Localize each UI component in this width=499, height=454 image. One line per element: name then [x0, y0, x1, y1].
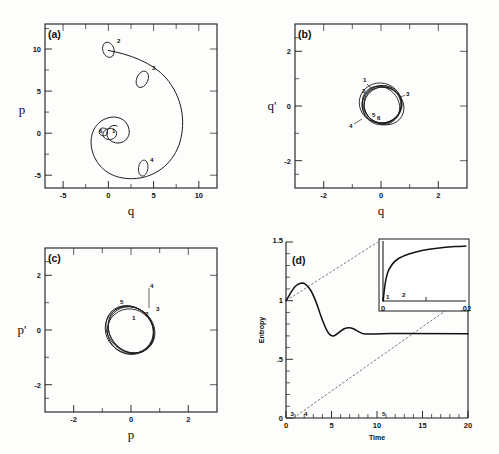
figure-canvas: (a) 10 5 0 -5: [0, 0, 499, 454]
panel-d-xlabel-10: 10: [373, 421, 381, 430]
panel-d-xlabel-0: 0: [284, 421, 288, 430]
panel-b-y-ticks: [295, 38, 467, 175]
panel-d-xlabel-15: 15: [418, 421, 426, 430]
panel-a-ylabel-0: 0: [37, 129, 41, 138]
panel-b: (b) 2 0 -2: [250, 2, 499, 230]
panel-b-xlabel-minus2: -2: [320, 191, 327, 200]
panel-d-x-ticks: [286, 411, 468, 418]
panel-b-x-ticks: [324, 24, 439, 188]
panel-a-ylabel-10: 10: [33, 45, 41, 54]
panel-c-point-label-5: 5: [120, 298, 124, 305]
panel-b-xlabel-0: 0: [379, 191, 383, 200]
panel-c-point-label-4: 4: [150, 282, 154, 289]
panel-b-point-label-1: 1: [363, 76, 367, 83]
panel-d-inset-point-label-1: 1: [386, 293, 390, 300]
panel-d-point-label-5: 5: [382, 410, 386, 417]
panel-c-frame: [45, 248, 217, 412]
panel-c-ylabel-minus2: -2: [34, 381, 41, 390]
panel-c-tag: (c): [48, 252, 61, 264]
panel-b-frame: [295, 24, 467, 188]
panel-c-xlabel-minus2: -2: [70, 415, 77, 424]
panel-a-ellipse-3: [134, 69, 151, 89]
panel-a-point-label-3: 3: [152, 64, 156, 71]
panel-b-xlabel-2: 2: [436, 191, 440, 200]
panel-d-inset-xlabel-point02: .02: [461, 304, 471, 313]
panel-c-axis-title-y: p': [18, 322, 27, 337]
panel-c-xlabel-0: 0: [129, 415, 133, 424]
panel-d-axis-title-y: Entropy: [258, 317, 266, 344]
panel-b-point-label-5: 5: [372, 111, 376, 118]
panel-c-contours: [96, 296, 165, 364]
panel-a-xlabel-0: 0: [106, 191, 110, 200]
panel-a-tag: (a): [48, 28, 61, 40]
panel-a-xlabel-10: 10: [195, 191, 203, 200]
panel-c-point-label-2: 2: [145, 310, 149, 317]
panel-a-frame: [45, 24, 217, 188]
panel-c-x-ticks: [74, 248, 189, 412]
panel-c-xlabel-2: 2: [186, 415, 190, 424]
panel-d-point-label-3: 3: [291, 410, 295, 417]
panel-d-inset: 0 .02 1 2: [379, 239, 471, 313]
panel-b-leader-4: [354, 119, 362, 124]
panel-b-point-label-6: 6: [377, 114, 381, 121]
panel-d: (d) 0: [250, 226, 499, 454]
panel-d-xlabel-20: 20: [464, 421, 472, 430]
panel-b-axis-title-y: q': [268, 98, 277, 113]
panel-d-ylabel-1: 1: [279, 296, 283, 305]
panel-a-ellipse-4: [137, 159, 149, 176]
panel-b-contour-2: [360, 83, 405, 126]
panel-b-ylabel-2: 2: [287, 47, 291, 56]
panel-d-tag: (d): [292, 254, 305, 266]
panel-a-ylabel-5: 5: [37, 87, 41, 96]
panel-d-inset-xlabel-0: 0: [381, 304, 385, 313]
panel-b-ylabel-minus2: -2: [284, 157, 291, 166]
panel-a: (a) 10 5 0 -5: [0, 2, 250, 230]
panel-a-x-ticks: [63, 24, 199, 188]
panel-d-axis-title-x: Time: [369, 434, 385, 441]
panel-a-y-ticks: [45, 29, 217, 176]
panel-a-point-label-1: 1: [112, 127, 116, 134]
panel-c-point-label-3: 3: [156, 305, 160, 312]
panel-c-axis-title-x: p: [128, 427, 135, 442]
panel-d-ylabel-1point5: 1.5: [273, 236, 283, 245]
panel-a-ylabel-minus5: -5: [34, 171, 41, 180]
panel-d-ylabel-0: 0: [279, 414, 283, 423]
panel-a-ellipse-2: [101, 41, 116, 59]
panel-b-point-label-3: 3: [406, 90, 410, 97]
panel-c-point-label-1: 1: [132, 314, 136, 321]
panel-c-ylabel-2: 2: [37, 271, 41, 280]
panel-d-point-label-4: 4: [304, 410, 308, 417]
panel-c-ylabel-0: 0: [37, 326, 41, 335]
panel-d-xlabel-5: 5: [329, 421, 333, 430]
panel-a-point-label-4: 4: [150, 156, 154, 163]
panel-a-axis-title-x: q: [128, 203, 135, 218]
panel-b-tag: (b): [298, 28, 311, 40]
panel-d-reference-line-upper: [286, 242, 378, 301]
panel-a-xlabel-minus5: -5: [60, 191, 67, 200]
panel-a-point-label-6: 6: [99, 127, 103, 134]
panel-a-axis-title-y: p: [19, 102, 26, 117]
panel-a-xlabel-5: 5: [152, 191, 156, 200]
panel-d-ylabel-point5: .5: [277, 355, 283, 364]
panel-b-point-label-4: 4: [349, 122, 353, 129]
panel-c: (c) 2 0 -2: [0, 226, 250, 454]
panel-b-ylabel-0: 0: [287, 102, 291, 111]
panel-b-axis-title-x: q: [378, 203, 385, 218]
panel-a-trajectory: [91, 51, 183, 179]
panel-b-point-label-2: 2: [362, 87, 366, 94]
panel-d-y-ticks: [286, 242, 293, 418]
panel-c-y-ticks: [45, 262, 217, 399]
panel-d-inset-point-label-2: 2: [402, 291, 406, 298]
panel-a-point-label-2: 2: [117, 37, 121, 44]
